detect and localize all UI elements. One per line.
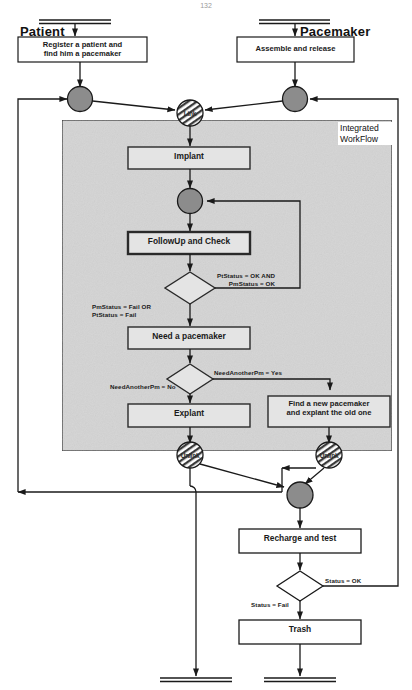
sync-label-unlink-right: Unlink <box>312 452 346 459</box>
guard-label-pt-pm-ok: PtStatus = OK AND PmStatus = OK <box>217 272 275 289</box>
activity-box-recharge <box>239 529 361 553</box>
guard-pm-pt-fail-line1: PmStatus = Fail OR <box>92 303 151 311</box>
merge-node-followup <box>178 189 203 214</box>
merge-node-recharge <box>287 482 313 508</box>
sync-label-link: Link <box>173 110 207 117</box>
diagram-canvas: 132 <box>0 0 412 690</box>
merge-node-patient <box>68 87 93 112</box>
guard-label-status-ok: Status = OK <box>325 577 361 585</box>
guard-label-need-another-no: NeedAnotherPm = No <box>110 383 176 391</box>
decision-node-recharge-status <box>277 571 323 601</box>
merge-node-pacemaker <box>283 87 308 112</box>
activity-box-implant <box>128 147 250 169</box>
activity-box-explant <box>128 404 250 427</box>
panel-title-line2: WorkFlow <box>340 134 392 145</box>
start-bar-pacemaker <box>259 20 330 24</box>
activity-box-trash <box>239 620 361 644</box>
swimlane-label-patient: Patient <box>20 24 65 39</box>
edge-unlink-right-to-merge-bottom <box>305 468 324 484</box>
edge-return-to-merge-left <box>18 99 67 492</box>
edge-merge-left-to-link <box>93 101 176 110</box>
edge-unlink-left-to-merge-bottom <box>200 464 284 487</box>
start-bar-patient <box>39 20 111 24</box>
sync-label-unlink-left: Unlink <box>173 452 207 459</box>
guard-label-status-fail: Status = Fail <box>251 601 289 609</box>
panel-title: Integrated WorkFlow <box>338 122 394 145</box>
activity-box-register <box>18 37 147 62</box>
guard-label-pm-pt-fail: PmStatus = Fail OR PtStatus = Fail <box>92 303 151 320</box>
activity-box-need-pacemaker <box>128 327 250 349</box>
guard-label-need-another-yes: NeedAnotherPm = Yes <box>214 369 282 377</box>
guard-pt-pm-ok-line2: PmStatus = OK <box>217 280 275 288</box>
guard-pt-pm-ok-line1: PtStatus = OK AND <box>217 272 275 280</box>
end-bar-left <box>160 678 232 682</box>
end-bar-right <box>264 678 336 682</box>
swimlane-label-pacemaker: Pacemaker <box>300 24 370 39</box>
page-number: 132 <box>200 2 212 9</box>
guard-pm-pt-fail-line2: PtStatus = Fail <box>92 311 151 319</box>
activity-box-assemble <box>237 37 354 62</box>
activity-box-find-new <box>268 396 390 427</box>
panel-title-line1: Integrated <box>340 123 392 134</box>
edge-merge-right-to-link <box>205 101 283 110</box>
diagram-vector-layer: 132 <box>0 0 412 690</box>
activity-box-followup <box>128 232 250 254</box>
edge-line-hop-arc <box>190 486 196 492</box>
